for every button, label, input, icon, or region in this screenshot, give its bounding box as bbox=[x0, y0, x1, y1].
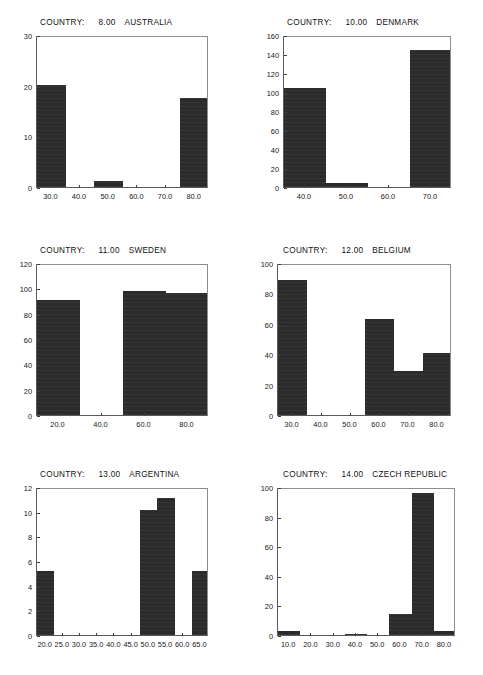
x-tick-label: 30.0 bbox=[43, 192, 57, 201]
x-tick-mark bbox=[113, 633, 114, 636]
country-code: 8.00 bbox=[85, 18, 116, 27]
x-tick-mark bbox=[399, 633, 400, 636]
bar bbox=[410, 50, 451, 187]
y-tick-label: 0 bbox=[3, 632, 32, 641]
y-tick-mark bbox=[37, 87, 40, 88]
x-tick-mark bbox=[194, 185, 195, 188]
bar bbox=[326, 183, 368, 187]
x-tick-label: 80.0 bbox=[186, 192, 200, 201]
panel-australia: COUNTRY:8.00AUSTRALIA 010203030.040.050.… bbox=[0, 0, 245, 228]
y-tick-mark bbox=[278, 547, 281, 548]
y-tick-label: 6 bbox=[3, 558, 32, 567]
x-tick-mark bbox=[96, 633, 97, 636]
panel-denmark: COUNTRY:10.00DENMARK 0204060801001201401… bbox=[245, 0, 483, 228]
panel-title-sweden: COUNTRY:11.00SWEDEN bbox=[40, 246, 166, 255]
y-tick-label: 60 bbox=[250, 127, 279, 136]
plot-area-sweden bbox=[36, 264, 208, 416]
x-tick-label: 60.0 bbox=[392, 640, 406, 649]
country-label: COUNTRY: bbox=[283, 470, 328, 479]
bar bbox=[284, 88, 326, 187]
y-tick-mark bbox=[284, 55, 287, 56]
x-tick-mark bbox=[131, 633, 132, 636]
y-tick-label: 40 bbox=[3, 361, 32, 370]
y-tick-label: 4 bbox=[3, 582, 32, 591]
y-tick-label: 0 bbox=[3, 184, 32, 193]
x-tick-mark bbox=[408, 413, 409, 416]
y-tick-mark bbox=[278, 488, 281, 489]
x-tick-mark bbox=[144, 413, 145, 416]
x-tick-mark bbox=[182, 633, 183, 636]
plot-area-argentina bbox=[36, 488, 208, 636]
panel-argentina: COUNTRY:13.00ARGENTINA 02468101220.025.0… bbox=[0, 456, 245, 675]
country-label: COUNTRY: bbox=[287, 18, 332, 27]
bar bbox=[192, 571, 208, 635]
y-tick-mark bbox=[37, 289, 40, 290]
y-tick-label: 120 bbox=[250, 70, 279, 79]
y-tick-label: 10 bbox=[3, 133, 32, 142]
country-label: COUNTRY: bbox=[40, 18, 85, 27]
x-tick-label: 30.0 bbox=[72, 640, 86, 649]
x-tick-label: 40.0 bbox=[93, 420, 107, 429]
y-tick-mark bbox=[278, 416, 281, 417]
x-tick-mark bbox=[422, 633, 423, 636]
bars-australia bbox=[37, 37, 207, 187]
x-tick-mark bbox=[377, 633, 378, 636]
x-tick-mark bbox=[199, 633, 200, 636]
x-tick-mark bbox=[108, 185, 109, 188]
bar bbox=[365, 319, 394, 415]
country-code: 10.00 bbox=[332, 18, 368, 27]
bar bbox=[394, 371, 423, 415]
x-tick-label: 10.0 bbox=[281, 640, 295, 649]
y-tick-label: 40 bbox=[250, 146, 279, 155]
panel-czech-republic: COUNTRY:14.00CZECH REPUBLIC 020406080100… bbox=[245, 456, 483, 675]
y-tick-mark bbox=[284, 112, 287, 113]
y-tick-mark bbox=[284, 36, 287, 37]
y-tick-mark bbox=[37, 537, 40, 538]
y-tick-label: 60 bbox=[3, 336, 32, 345]
x-tick-mark bbox=[79, 185, 80, 188]
x-tick-label: 20.0 bbox=[37, 640, 51, 649]
bar bbox=[37, 300, 80, 415]
y-tick-mark bbox=[278, 264, 281, 265]
x-tick-mark bbox=[346, 185, 347, 188]
y-tick-mark bbox=[278, 606, 281, 607]
y-tick-mark bbox=[278, 577, 281, 578]
x-tick-label: 50.0 bbox=[339, 192, 353, 201]
bar bbox=[423, 353, 451, 415]
y-tick-label: 20 bbox=[250, 165, 279, 174]
country-label: COUNTRY: bbox=[283, 246, 328, 255]
bar bbox=[123, 291, 166, 415]
x-tick-label: 60.0 bbox=[371, 420, 385, 429]
x-tick-mark bbox=[58, 413, 59, 416]
x-tick-mark bbox=[45, 633, 46, 636]
x-tick-label: 35.0 bbox=[89, 640, 103, 649]
bars-czech-republic bbox=[278, 489, 454, 635]
x-tick-label: 80.0 bbox=[437, 640, 451, 649]
x-tick-label: 40.0 bbox=[72, 192, 86, 201]
y-tick-label: 140 bbox=[250, 51, 279, 60]
y-tick-label: 100 bbox=[3, 285, 32, 294]
x-tick-label: 50.0 bbox=[342, 420, 356, 429]
y-tick-label: 40 bbox=[244, 572, 273, 581]
y-tick-label: 20 bbox=[244, 602, 273, 611]
panel-belgium: COUNTRY:12.00BELGIUM 02040608010030.040.… bbox=[245, 228, 483, 456]
plot-area-australia bbox=[36, 36, 208, 188]
y-tick-mark bbox=[37, 391, 40, 392]
x-tick-mark bbox=[350, 413, 351, 416]
y-tick-mark bbox=[284, 131, 287, 132]
panel-title-belgium: COUNTRY:12.00BELGIUM bbox=[283, 246, 411, 255]
bar bbox=[94, 181, 123, 187]
y-tick-label: 20 bbox=[3, 386, 32, 395]
y-tick-mark bbox=[37, 587, 40, 588]
x-tick-label: 70.0 bbox=[158, 192, 172, 201]
y-tick-label: 0 bbox=[244, 412, 273, 421]
plot-area-czech-republic bbox=[277, 488, 455, 636]
x-tick-label: 50.0 bbox=[100, 192, 114, 201]
country-name: AUSTRALIA bbox=[116, 18, 173, 27]
y-tick-label: 100 bbox=[244, 260, 273, 269]
y-tick-label: 2 bbox=[3, 607, 32, 616]
y-tick-mark bbox=[37, 488, 40, 489]
x-tick-label: 25.0 bbox=[55, 640, 69, 649]
y-tick-mark bbox=[284, 169, 287, 170]
x-tick-label: 30.0 bbox=[325, 640, 339, 649]
